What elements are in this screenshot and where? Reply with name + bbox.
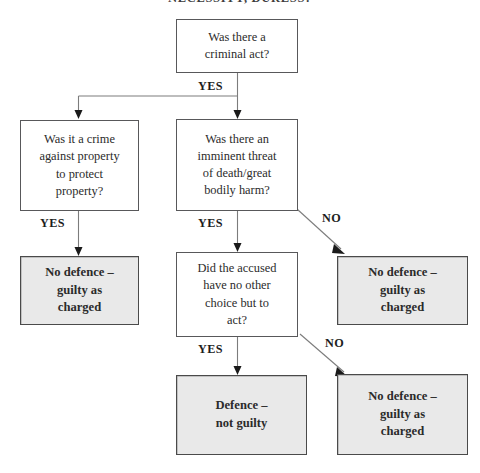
node-o3-line2: not guilty xyxy=(216,416,267,430)
edge-label-no-mid: NO xyxy=(322,211,341,226)
node-q2-line3: to protect xyxy=(56,167,103,181)
node-q3-line3: of death/great xyxy=(203,166,271,180)
node-q2-line1: Was it a crime xyxy=(44,132,115,146)
node-o1-line1: No defence – xyxy=(45,265,114,279)
edge-label-yes-bottom: YES xyxy=(198,342,223,357)
node-o4-line3: charged xyxy=(381,424,424,438)
arrowhead-q3-to-o2 xyxy=(332,244,345,254)
node-o2-line1: No defence – xyxy=(368,265,437,279)
node-q1-line1: Was there a xyxy=(208,30,265,44)
node-q3-line4: bodily harm? xyxy=(204,183,270,197)
edge-label-no-bottom: NO xyxy=(325,336,344,351)
node-q1-line2: criminal act? xyxy=(205,47,269,61)
node-o1-line2: guilty as xyxy=(57,283,102,297)
node-outcome-defence-not-guilty[interactable]: Defence – not guilty xyxy=(176,375,307,455)
arrowhead-q1-to-q3 xyxy=(234,110,242,119)
node-imminent-threat[interactable]: Was there an imminent threat of death/gr… xyxy=(176,119,298,211)
node-q4-line4: act? xyxy=(227,313,247,327)
node-o1-line3: charged xyxy=(58,300,101,314)
node-o4-line2: guilty as xyxy=(380,407,425,421)
node-no-other-choice[interactable]: Did the accused have no other choice but… xyxy=(176,252,298,337)
node-q4-line3: choice but to xyxy=(205,296,269,310)
node-q3-line1: Was there an xyxy=(205,132,269,146)
node-q4-line2: have no other xyxy=(203,278,270,292)
edge-label-yes-left: YES xyxy=(40,216,65,231)
arrowhead-q2-to-o1 xyxy=(75,247,83,256)
node-crime-against-property[interactable]: Was it a crime against property to prote… xyxy=(20,120,139,211)
edge-label-yes-top: YES xyxy=(198,79,223,94)
node-q2-line4: property? xyxy=(56,184,103,198)
node-q4-line1: Did the accused xyxy=(197,261,276,275)
node-q3-line2: imminent threat xyxy=(198,149,277,163)
node-outcome-no-defence-bottom-right[interactable]: No defence – guilty as charged xyxy=(337,374,468,455)
edge-label-yes-mid: YES xyxy=(198,216,223,231)
node-o2-line3: charged xyxy=(381,300,424,314)
arrowhead-q4-to-o3 xyxy=(234,366,242,375)
node-o4-line1: No defence – xyxy=(368,389,437,403)
arrowhead-q1-to-q2 xyxy=(75,110,83,119)
node-outcome-no-defence-mid-right[interactable]: No defence – guilty as charged xyxy=(337,256,468,325)
node-was-there-a-criminal-act[interactable]: Was there a criminal act? xyxy=(176,19,298,73)
node-outcome-no-defence-left[interactable]: No defence – guilty as charged xyxy=(20,256,139,325)
node-o2-line2: guilty as xyxy=(380,283,425,297)
arrowhead-q3-to-q4 xyxy=(234,243,242,252)
flowchart-canvas: NECESSITY, DURESS? Was there a c xyxy=(0,0,480,473)
page-title: NECESSITY, DURESS? xyxy=(0,0,480,6)
node-q2-line2: against property xyxy=(39,149,119,163)
node-o3-line1: Defence – xyxy=(215,398,267,412)
